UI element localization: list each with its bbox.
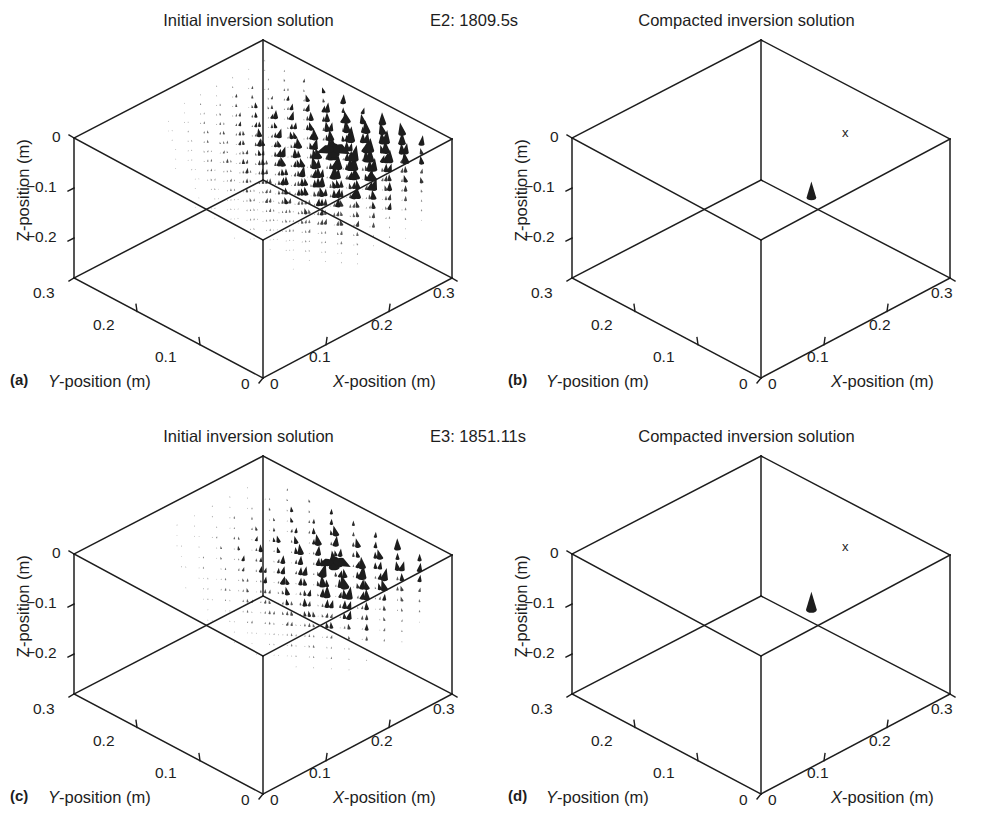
field-cone bbox=[282, 602, 284, 605]
field-cone bbox=[247, 497, 248, 498]
field-cone bbox=[175, 159, 176, 160]
field-cone bbox=[229, 610, 230, 611]
field-cone bbox=[234, 642, 235, 643]
field-cone bbox=[314, 203, 315, 205]
panel-title-c: Initial inversion solution bbox=[163, 428, 334, 445]
field-cone bbox=[248, 88, 249, 89]
field-cone bbox=[251, 86, 253, 89]
field-cone bbox=[401, 179, 403, 182]
y-axis-label-b: Y-position (m) bbox=[546, 373, 649, 390]
field-cone bbox=[361, 107, 365, 114]
field-cone bbox=[236, 133, 237, 135]
z-tick-mark-top bbox=[69, 551, 74, 554]
field-cone bbox=[289, 229, 291, 232]
field-cone bbox=[257, 128, 262, 137]
field-cone bbox=[268, 589, 270, 593]
field-cone bbox=[263, 577, 267, 584]
field-cone bbox=[230, 218, 231, 219]
field-cone bbox=[250, 179, 252, 182]
field-cone bbox=[291, 540, 293, 543]
field-cone bbox=[298, 211, 300, 214]
axis-frame-d bbox=[566, 456, 955, 799]
field-cone bbox=[404, 166, 408, 173]
field-cone bbox=[372, 222, 375, 227]
y-tick-02-c: 0.2 bbox=[93, 733, 115, 749]
panel-a-plot bbox=[0, 0, 497, 416]
field-cone bbox=[269, 519, 270, 520]
field-cone bbox=[348, 636, 350, 640]
z-tick-0-a: 0 bbox=[52, 129, 61, 145]
field-cone bbox=[273, 527, 275, 531]
field-cone bbox=[220, 152, 221, 153]
field-cone bbox=[330, 613, 333, 618]
field-cone bbox=[377, 561, 382, 569]
field-cone bbox=[335, 584, 336, 587]
field-cone bbox=[264, 589, 266, 593]
field-cone bbox=[235, 114, 237, 117]
x-tick-mark-1 bbox=[389, 304, 390, 311]
field-cone bbox=[315, 546, 321, 556]
field-cone bbox=[252, 643, 253, 644]
field-cone bbox=[199, 567, 200, 568]
origin-tick-mark bbox=[259, 794, 263, 799]
x-axis-label-d: X-position (m) bbox=[831, 789, 934, 806]
field-cone bbox=[361, 605, 363, 609]
field-cone bbox=[375, 608, 376, 609]
field-cone bbox=[266, 210, 267, 212]
field-cone bbox=[250, 189, 251, 191]
field-cone bbox=[320, 198, 324, 206]
field-cone bbox=[277, 547, 281, 553]
field-cone bbox=[293, 269, 294, 270]
field-cone bbox=[253, 208, 254, 210]
field-cone bbox=[284, 88, 286, 91]
field-cone bbox=[172, 140, 173, 141]
field-cone bbox=[230, 188, 232, 191]
y-tick-mark-1 bbox=[136, 304, 137, 311]
field-cone bbox=[331, 646, 332, 648]
field-cone bbox=[239, 112, 241, 116]
x-tick-02-c: 0.2 bbox=[371, 733, 393, 749]
field-cone bbox=[356, 232, 358, 236]
field-cone bbox=[322, 98, 325, 102]
field-cone bbox=[275, 193, 276, 194]
field-cone bbox=[309, 250, 310, 252]
field-cone bbox=[220, 142, 221, 144]
field-cone bbox=[246, 209, 247, 211]
field-cone bbox=[330, 635, 332, 639]
field-cone bbox=[308, 200, 311, 205]
field-cone bbox=[355, 538, 361, 548]
field-cone bbox=[322, 614, 324, 617]
field-cone bbox=[242, 578, 244, 581]
field-cone bbox=[226, 159, 228, 163]
field-cone bbox=[269, 198, 272, 203]
field-cone bbox=[312, 611, 315, 617]
x-tick-mark-1 bbox=[389, 720, 390, 727]
field-cone bbox=[296, 655, 297, 657]
field-cone bbox=[252, 125, 253, 127]
field-cone bbox=[278, 655, 279, 656]
field-cone bbox=[324, 102, 330, 112]
field-cone bbox=[297, 181, 300, 186]
field-cone bbox=[246, 220, 247, 221]
z-tick-m01-a: −0.1 bbox=[26, 179, 57, 195]
field-cone bbox=[238, 590, 239, 592]
y-tick-mark-0 bbox=[199, 754, 200, 761]
field-cone bbox=[207, 588, 208, 590]
field-cone bbox=[238, 537, 240, 540]
field-cone bbox=[238, 558, 239, 560]
x-tick-mark-max bbox=[950, 278, 955, 281]
field-cone bbox=[203, 121, 205, 124]
field-cone bbox=[308, 219, 310, 223]
field-cone bbox=[273, 209, 274, 212]
field-cone bbox=[168, 121, 169, 122]
field-cone bbox=[212, 620, 213, 621]
field-cone bbox=[229, 496, 230, 498]
field-cone bbox=[223, 171, 224, 173]
field-cone bbox=[362, 179, 363, 180]
field-cone bbox=[216, 105, 217, 106]
field-cone bbox=[216, 114, 217, 116]
source-marker-x-b: x bbox=[842, 126, 849, 139]
field-cone bbox=[265, 189, 268, 193]
field-cone bbox=[269, 228, 270, 230]
field-cone bbox=[337, 253, 338, 254]
